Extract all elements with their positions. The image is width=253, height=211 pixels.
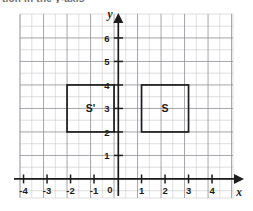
y-tick-label: 1	[104, 150, 110, 161]
x-tick-label: 4	[209, 185, 215, 196]
x-axis-label: x	[235, 186, 242, 198]
y-tick-label: 3	[104, 103, 109, 114]
x-tick-label: 3	[186, 185, 191, 196]
coordinate-plane-svg: -4 -3 -2 -1 0 1 2 3 4 1 2 3 4 5 6 x y S'…	[0, 0, 253, 211]
y-tick-label: 5	[104, 56, 110, 67]
shape-s-label: S	[162, 102, 169, 114]
y-axis-label: y	[105, 8, 113, 21]
x-tick-label: -3	[43, 185, 51, 196]
x-tick-label: 2	[162, 185, 167, 196]
x-tick-label: -4	[19, 185, 28, 196]
x-tick-label: -1	[90, 185, 99, 196]
shape-s-prime-label: S'	[86, 102, 96, 114]
x-tick-label: 1	[139, 185, 145, 196]
x-tick-label: -2	[66, 185, 74, 196]
coordinate-plane-figure: -4 -3 -2 -1 0 1 2 3 4 1 2 3 4 5 6 x y S'…	[0, 0, 253, 211]
y-tick-label: 6	[104, 33, 109, 44]
plot-background	[20, 14, 233, 198]
origin-label: 0	[107, 184, 112, 195]
